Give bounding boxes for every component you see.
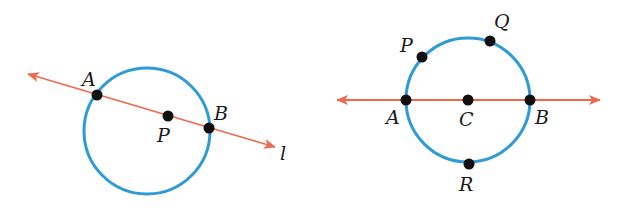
point-label-p: P	[156, 124, 171, 146]
point-p	[417, 52, 428, 63]
point-r	[464, 159, 475, 170]
geometry-diagram: APB l ACBPQR	[0, 0, 621, 207]
point-label-q: Q	[494, 10, 510, 32]
point-label-c: C	[459, 108, 474, 130]
point-a	[401, 95, 412, 106]
point-label-b: B	[534, 106, 549, 128]
point-b	[525, 95, 536, 106]
point-label-a: A	[80, 68, 96, 90]
point-label-p: P	[399, 34, 414, 56]
figure-right: ACBPQR	[337, 10, 600, 195]
point-c	[463, 95, 474, 106]
point-p	[163, 111, 174, 122]
point-b	[204, 123, 215, 134]
line-label-l: l	[280, 142, 286, 164]
point-label-b: B	[213, 102, 228, 124]
point-a	[92, 90, 103, 101]
point-q	[485, 36, 496, 47]
point-label-a: A	[384, 106, 400, 128]
line-l	[28, 74, 275, 147]
figure-left: APB l	[28, 68, 286, 194]
circle-p	[84, 68, 210, 194]
point-label-r: R	[458, 173, 473, 195]
